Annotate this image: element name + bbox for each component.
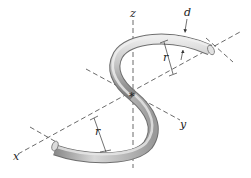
x-axis-label: x	[13, 150, 20, 163]
diameter-arrowhead	[184, 29, 188, 33]
lower-end-axis-line	[30, 127, 58, 143]
diameter-inner-arrowhead	[181, 50, 185, 53]
lower-radius-tick-top	[90, 116, 98, 120]
diameter-leader-line	[185, 19, 187, 31]
z-axis-label: z	[129, 7, 136, 20]
diameter-label: d	[184, 6, 191, 19]
origin-marker: *	[129, 90, 135, 103]
y-axis-label: y	[179, 118, 187, 131]
lower-radius-label: r	[95, 125, 101, 138]
upper-radius-label: r	[163, 51, 169, 64]
s-shaped-rod-diagram: * z x y d r r	[0, 0, 251, 178]
rod-upper-arc-highlight	[115, 39, 210, 96]
